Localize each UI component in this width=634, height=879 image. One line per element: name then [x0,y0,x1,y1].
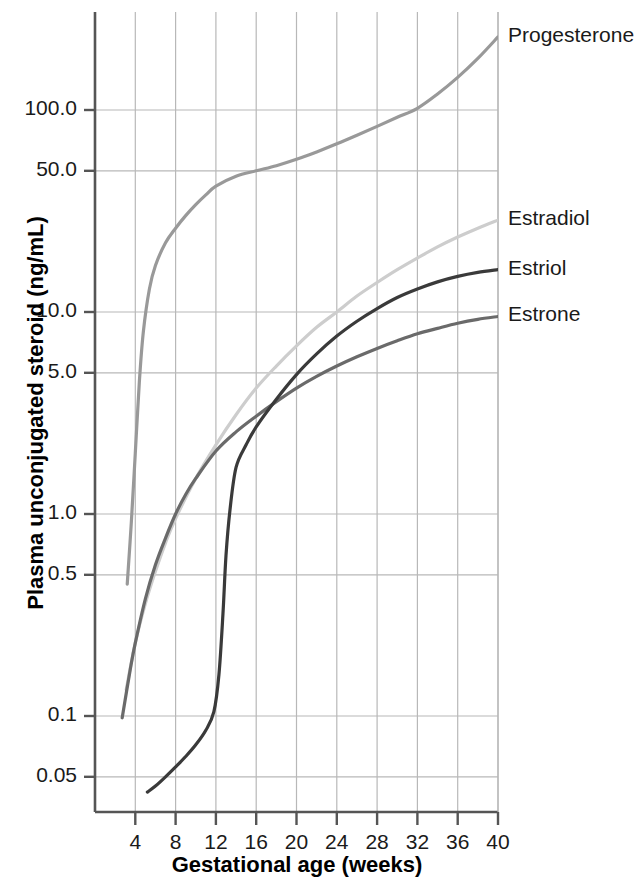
axis-ticks [84,110,498,825]
grid-lines [95,12,498,812]
series-line-estrone [122,317,498,718]
series-label-estrone: Estrone [508,302,580,326]
series-label-estradiol: Estradiol [508,206,590,230]
y-tick-label: 50.0 [0,157,77,181]
series-label-progesterone: Progesterone [508,23,634,47]
y-tick-label: 100.0 [0,96,77,120]
series-line-estriol [147,270,498,792]
x-tick-label: 40 [468,830,528,854]
series-label-estriol: Estriol [508,256,566,280]
data-series-lines [122,37,498,792]
y-tick-label: 0.1 [0,702,77,726]
y-axis-title: Plasma unconjugated steroid (ng/mL) [23,193,53,633]
y-tick-label: 0.05 [0,763,77,787]
series-line-estradiol [126,220,498,690]
x-axis-title: Gestational age (weeks) [95,852,499,878]
y-axis-title-text: Plasma unconjugated steroid (ng/mL) [23,216,48,610]
